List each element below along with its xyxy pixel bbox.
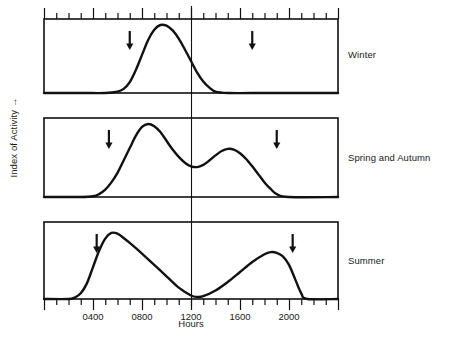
sun-marker-arrow-icon	[273, 130, 280, 149]
sun-marker-arrow-icon	[249, 31, 256, 50]
sun-marker-arrow-icon	[126, 31, 133, 50]
panel-label-summer: Summer	[348, 255, 385, 266]
activity-index-figure: Index of Activity → Winter Spring and Au…	[0, 0, 452, 337]
panel-label-winter: Winter	[348, 49, 376, 60]
x-axis-title: Hours	[0, 318, 382, 329]
sun-marker-arrow-icon	[105, 130, 112, 149]
chart-canvas	[0, 0, 452, 337]
y-axis-label: Index of Activity →	[8, 63, 19, 213]
panel-label-spring-autumn: Spring and Autumn	[348, 152, 431, 163]
sun-marker-arrow-icon	[289, 234, 296, 253]
